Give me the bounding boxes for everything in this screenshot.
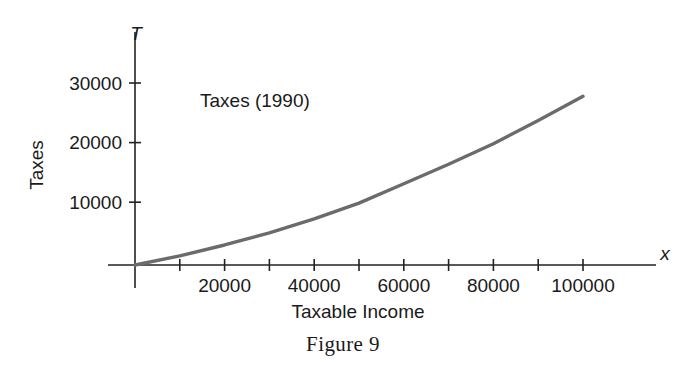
y-axis-title: Taxes <box>26 140 47 190</box>
tax-curve-line <box>135 96 583 265</box>
x-tick-label-100000: 100000 <box>551 275 614 296</box>
y-axis-symbol-label: T <box>130 23 143 44</box>
x-tick-label-80000: 80000 <box>467 275 520 296</box>
x-tick-label-20000: 20000 <box>198 275 251 296</box>
x-axis-symbol-label: x <box>659 243 671 264</box>
y-tick-label-30000: 30000 <box>69 73 122 94</box>
y-tick-label-10000: 10000 <box>69 192 122 213</box>
x-axis-title: Taxable Income <box>291 301 424 322</box>
taxes-line-chart: 20000 40000 60000 80000 100000 10000 200… <box>0 0 686 377</box>
chart-annotation-label: Taxes (1990) <box>200 90 310 111</box>
x-tick-label-60000: 60000 <box>377 275 430 296</box>
figure-caption: Figure 9 <box>0 332 686 357</box>
x-tick-label-40000: 40000 <box>288 275 341 296</box>
y-tick-label-20000: 20000 <box>69 132 122 153</box>
figure-container: 20000 40000 60000 80000 100000 10000 200… <box>0 0 686 377</box>
